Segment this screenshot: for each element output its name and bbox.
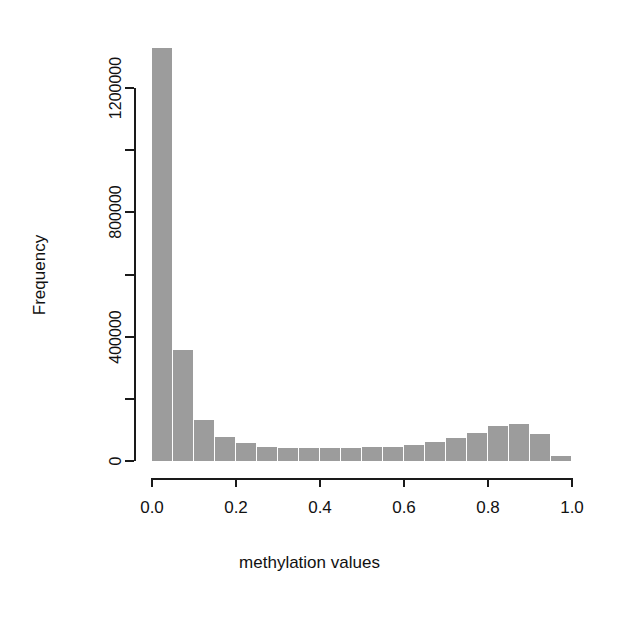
plot-area: 04000008000001200000 0.00.20.40.60.81.0 … — [0, 0, 619, 617]
y-axis-title: Frequency — [30, 195, 50, 355]
histogram-bar — [194, 420, 214, 461]
y-axis-tick — [125, 460, 134, 462]
histogram-bar — [509, 424, 529, 461]
histogram-bar — [530, 434, 550, 461]
x-axis-tick-label: 1.0 — [542, 498, 602, 518]
histogram-bar — [404, 445, 424, 461]
x-axis-line — [152, 478, 572, 480]
x-axis-tick — [235, 478, 237, 487]
y-axis-tick — [125, 149, 134, 151]
histogram-bar — [488, 426, 508, 461]
histogram-bar — [362, 447, 382, 461]
y-axis-tick — [125, 87, 134, 89]
histogram-bar — [236, 443, 256, 461]
histogram-bar — [383, 447, 403, 461]
y-axis-tick — [125, 336, 134, 338]
x-axis-tick-label: 0.6 — [374, 498, 434, 518]
x-axis-tick-label: 0.8 — [458, 498, 518, 518]
histogram-bar — [551, 456, 571, 461]
x-axis-tick-label: 0.0 — [122, 498, 182, 518]
y-axis-tick — [125, 211, 134, 213]
histogram-bar — [446, 438, 466, 461]
x-axis-tick — [319, 478, 321, 487]
x-axis-tick — [403, 478, 405, 487]
y-axis-tick — [125, 398, 134, 400]
x-axis-title: methylation values — [0, 553, 619, 573]
x-axis-tick-label: 0.2 — [206, 498, 266, 518]
histogram-bar — [341, 448, 361, 461]
histogram-bar — [320, 448, 340, 461]
histogram-bar — [425, 442, 445, 461]
x-axis-tick — [487, 478, 489, 487]
histogram-bar — [257, 447, 277, 461]
y-axis-line — [134, 88, 136, 461]
histogram-bar — [299, 448, 319, 461]
histogram-bar — [467, 433, 487, 461]
y-axis-tick — [125, 274, 134, 276]
x-axis-tick — [151, 478, 153, 487]
histogram-bar — [215, 437, 235, 461]
histogram-bar — [152, 48, 172, 461]
x-axis-tick-label: 0.4 — [290, 498, 350, 518]
histogram-bar — [173, 350, 193, 461]
histogram-figure: 04000008000001200000 0.00.20.40.60.81.0 … — [0, 0, 619, 617]
x-axis-tick — [571, 478, 573, 487]
histogram-bar — [278, 448, 298, 461]
